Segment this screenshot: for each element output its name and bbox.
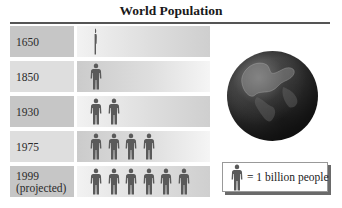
pictogram-row: 1975	[10, 131, 210, 162]
earth-globe-image	[227, 51, 318, 141]
person-icon	[90, 63, 102, 90]
population-bar	[77, 96, 210, 127]
half-person-icon	[89, 28, 101, 55]
row-label: 1975	[10, 131, 74, 162]
year-label: 1999	[16, 170, 74, 182]
chart-title: World Population	[0, 3, 342, 19]
person-icon	[160, 168, 172, 195]
row-label: 1999(projected)	[10, 166, 74, 197]
row-label: 1650	[10, 26, 74, 57]
legend-label: = 1 billion people	[247, 171, 329, 183]
year-label: 1650	[16, 36, 74, 48]
person-icon	[125, 133, 137, 160]
year-label: 1930	[16, 106, 74, 118]
person-icon	[231, 164, 243, 191]
pictogram-row: 1650	[10, 26, 210, 57]
person-icon	[125, 168, 137, 195]
continents-icon	[227, 51, 318, 141]
legend-box: = 1 billion people	[222, 162, 328, 192]
person-icon	[108, 168, 120, 195]
population-bar	[77, 131, 210, 162]
row-label: 1850	[10, 61, 74, 92]
pictogram-row: 1850	[10, 61, 210, 92]
title-divider	[10, 22, 330, 24]
pictogram-row: 1999(projected)	[10, 166, 210, 197]
population-bar	[77, 61, 210, 92]
year-label: 1850	[16, 71, 74, 83]
row-label: 1930	[10, 96, 74, 127]
pictogram-row: 1930	[10, 96, 210, 127]
person-icon	[143, 133, 155, 160]
person-icon	[178, 168, 190, 195]
year-label: 1975	[16, 141, 74, 153]
person-icon	[143, 168, 155, 195]
year-sublabel: (projected)	[16, 182, 74, 194]
person-icon	[108, 98, 120, 125]
population-bar	[77, 26, 210, 57]
person-icon	[90, 168, 102, 195]
person-icon	[108, 133, 120, 160]
person-icon	[90, 133, 102, 160]
person-icon	[90, 98, 102, 125]
population-bar	[77, 166, 210, 197]
